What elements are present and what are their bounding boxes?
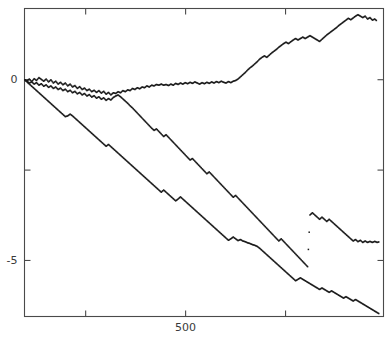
axis-tick-labels: 0-5500 bbox=[7, 73, 197, 333]
data-point bbox=[378, 313, 380, 315]
y-tick-label: -5 bbox=[7, 254, 18, 267]
data-series-layer bbox=[24, 0, 385, 314]
data-point bbox=[380, 0, 382, 2]
axis-ticks bbox=[25, 9, 384, 317]
data-point bbox=[383, 0, 385, 2]
data-point bbox=[376, 20, 378, 22]
x-tick-label: 500 bbox=[175, 321, 196, 334]
chart-figure: 0-5500 bbox=[0, 0, 392, 342]
data-point bbox=[381, 0, 383, 2]
data-point bbox=[382, 0, 384, 2]
data-point bbox=[376, 0, 378, 2]
axes-frame bbox=[25, 9, 384, 317]
data-point bbox=[381, 0, 383, 2]
data-point bbox=[308, 249, 310, 251]
data-point bbox=[379, 0, 381, 2]
data-point bbox=[382, 0, 384, 2]
data-point bbox=[383, 0, 385, 2]
scatter-plot-canvas: 0-5500 bbox=[0, 0, 392, 342]
data-point bbox=[383, 0, 385, 2]
series-2-points bbox=[24, 0, 385, 267]
data-point bbox=[307, 266, 309, 268]
data-point bbox=[380, 0, 382, 2]
data-point bbox=[380, 0, 382, 2]
data-point bbox=[308, 231, 310, 233]
plot-frame bbox=[25, 9, 384, 317]
data-point bbox=[382, 0, 384, 2]
series-1-points bbox=[24, 0, 385, 96]
data-point bbox=[382, 0, 384, 2]
data-point bbox=[379, 0, 381, 2]
data-point bbox=[379, 0, 381, 2]
y-tick-label: 0 bbox=[11, 73, 18, 86]
data-point bbox=[381, 0, 383, 2]
data-point bbox=[380, 0, 382, 2]
data-point bbox=[382, 0, 384, 2]
data-point bbox=[380, 0, 382, 2]
data-point bbox=[382, 0, 384, 2]
data-point bbox=[378, 241, 380, 243]
data-point bbox=[377, 0, 379, 2]
series-3-points bbox=[24, 0, 385, 314]
data-point bbox=[380, 0, 382, 2]
data-point bbox=[378, 0, 380, 2]
